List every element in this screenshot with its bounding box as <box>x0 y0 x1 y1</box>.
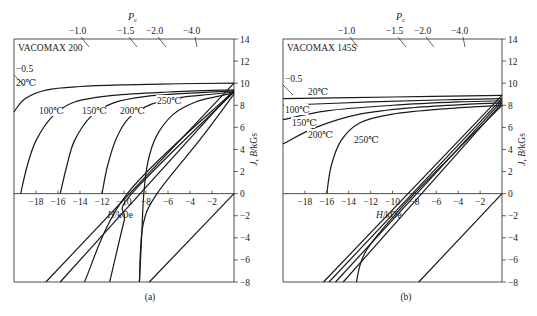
y-tick-label: 2 <box>508 167 513 177</box>
curve-150-b <box>84 91 234 282</box>
y-tick-label: 10 <box>240 79 250 89</box>
x-tick-label: −12 <box>363 197 378 207</box>
temperature-label: 20℃ <box>16 78 37 88</box>
y-tick-label: 12 <box>240 57 250 67</box>
pc-load-line-marker <box>195 37 197 47</box>
pc-tick-label: −1.5 <box>117 26 134 36</box>
x-axis-label: H/kOe <box>107 210 133 220</box>
y-tick-label: 8 <box>508 101 513 111</box>
y-tick-label: −2 <box>240 211 250 221</box>
curve-200-b <box>343 103 502 282</box>
curve-load-line-pc <box>149 194 234 282</box>
temperature-label: 200℃ <box>120 106 145 116</box>
y-tick-label: 8 <box>240 101 245 111</box>
x-tick-label: −6 <box>431 197 441 207</box>
pc-load-line-marker <box>158 37 166 47</box>
pc-load-line-marker <box>129 37 137 47</box>
y-tick-label: 0 <box>240 189 245 199</box>
plot-frame <box>14 39 234 282</box>
pc-tick-label: −1.0 <box>69 26 86 36</box>
panel-caption: (a) <box>145 292 156 303</box>
curve-250-j <box>327 105 502 193</box>
x-tick-label: −16 <box>319 197 334 207</box>
curve-250-j <box>139 93 234 282</box>
x-tick-label: −18 <box>297 197 312 207</box>
y-tick-label: 12 <box>508 57 518 67</box>
pc-tick-label: −1.0 <box>338 26 355 36</box>
temperature-label: 20℃ <box>308 87 329 97</box>
pc-load-line-marker <box>283 85 293 95</box>
demagnetization-figure: −18−16−14−12−10−8−6−4−214121086420−2−4−6… <box>0 0 537 316</box>
pc-tick-label: −4.0 <box>451 26 468 36</box>
y-tick-label: 14 <box>240 35 250 45</box>
pc-tick-label: −2.0 <box>414 26 431 36</box>
x-tick-label: −18 <box>29 197 44 207</box>
pc-load-line-marker <box>426 37 434 47</box>
x-tick-label: −10 <box>385 197 400 207</box>
pc-tick-label: −2.0 <box>146 26 163 36</box>
temperature-label: 100℃ <box>285 105 310 115</box>
x-axis-label: H/kOe <box>375 210 401 220</box>
x-tick-label: −4 <box>453 197 463 207</box>
pc-tick-label: −0.5 <box>285 74 302 84</box>
x-tick-label: −6 <box>163 197 173 207</box>
y-axis-label: J, B/kGs <box>517 133 527 166</box>
y-axis-label: J, B/kGs <box>249 133 259 166</box>
temperature-label: 200℃ <box>308 130 333 140</box>
temperature-label: 150℃ <box>292 118 317 128</box>
y-tick-label: −4 <box>240 233 250 243</box>
y-tick-label: −8 <box>240 278 250 288</box>
x-tick-label: −12 <box>95 197 110 207</box>
x-tick-label: −4 <box>185 197 195 207</box>
y-tick-label: 4 <box>508 145 513 155</box>
curve-100-b <box>60 90 234 282</box>
y-tick-label: −2 <box>508 211 518 221</box>
y-tick-label: −6 <box>240 255 250 265</box>
pc-tick-label: −0.5 <box>16 64 33 74</box>
panel-title: VACOMAX 200 <box>18 43 83 53</box>
pc-load-line-marker <box>463 37 465 47</box>
curve-250-b <box>139 94 234 282</box>
curve-20-b <box>324 95 502 282</box>
temperature-label: 100℃ <box>39 106 64 116</box>
temperature-label: 250℃ <box>354 135 379 145</box>
pc-tick-label: −1.5 <box>386 26 403 36</box>
pc-axis-label: Pc <box>127 11 137 24</box>
curve-load-line-pc <box>419 194 502 282</box>
panel-b-vacomax-145s: −18−16−14−12−10−8−6−4−214121086420−2−4−6… <box>283 11 527 303</box>
temperature-label: 250℃ <box>157 96 182 106</box>
x-tick-label: −2 <box>475 197 485 207</box>
x-tick-label: −14 <box>73 197 88 207</box>
panel-caption: (b) <box>400 292 411 303</box>
temperature-label: 150℃ <box>82 106 107 116</box>
x-tick-label: −16 <box>51 197 66 207</box>
y-tick-label: 14 <box>508 35 518 45</box>
y-tick-label: 4 <box>240 145 245 155</box>
y-tick-label: −4 <box>508 233 518 243</box>
panel-title: VACOMAX 145S <box>287 43 357 53</box>
y-tick-label: 6 <box>508 123 513 133</box>
y-tick-label: 10 <box>508 79 518 89</box>
y-tick-label: −8 <box>508 278 518 288</box>
curve-150-b <box>336 101 502 282</box>
y-tick-label: 0 <box>508 189 513 199</box>
x-tick-label: −2 <box>207 197 217 207</box>
y-tick-label: 6 <box>240 123 245 133</box>
curve-200-b <box>110 92 234 282</box>
y-tick-label: 2 <box>240 167 245 177</box>
panel-a-vacomax-200: −18−16−14−12−10−8−6−4−214121086420−2−4−6… <box>14 11 259 303</box>
plot-frame <box>283 39 502 282</box>
x-tick-label: −14 <box>341 197 356 207</box>
pc-load-line-marker <box>398 37 406 47</box>
pc-axis-label: Pc <box>395 11 405 24</box>
y-tick-label: −6 <box>508 255 518 265</box>
pc-tick-label: −4.0 <box>183 26 200 36</box>
